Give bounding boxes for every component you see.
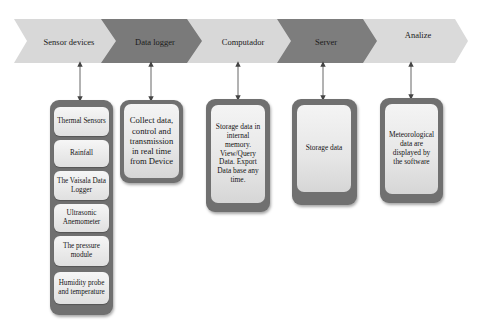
server-panel: Storage data [292, 99, 357, 205]
sensor-item: Ultrasonic Anemometer [54, 204, 109, 232]
sensor-item: The Vaisala Data Logger [54, 171, 109, 200]
analize-description: Meteorological data are displayed by the… [385, 104, 438, 194]
sensor-item: Thermal Sensors [54, 107, 109, 136]
sensor-item: The pressure module [54, 236, 109, 266]
data-logger-panel: Collect data, control and transmission i… [120, 100, 183, 183]
sensor-item: Humidity probe and temperature [54, 272, 109, 304]
computador-panel: Storage data in internal memory. View/Qu… [206, 99, 270, 212]
server-description: Storage data [297, 105, 351, 192]
computador-description: Storage data in internal memory. View/Qu… [211, 105, 265, 203]
connector-arrows [0, 0, 486, 110]
analize-panel: Meteorological data are displayed by the… [380, 98, 443, 203]
sensor-devices-panel: Thermal Sensors Rainfall The Vaisala Dat… [50, 100, 113, 315]
data-logger-description: Collect data, control and transmission i… [124, 104, 179, 178]
sensor-item: Rainfall [54, 140, 109, 167]
